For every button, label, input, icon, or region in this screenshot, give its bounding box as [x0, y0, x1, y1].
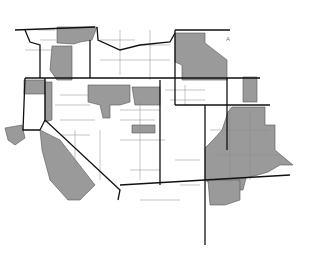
annotation-a: A	[226, 36, 230, 42]
western-us-county-map	[0, 0, 317, 260]
